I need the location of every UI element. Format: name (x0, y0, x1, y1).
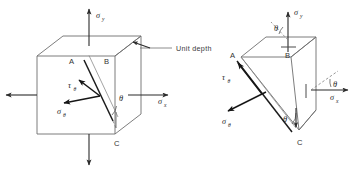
label-tau-theta-sub-left: θ (74, 86, 77, 92)
label-tau-theta-sub-right: θ (228, 78, 231, 84)
right-panel-wedge (228, 12, 348, 132)
label-sigma-y-right: σ (294, 8, 299, 17)
label-point-c-left: C (114, 139, 120, 148)
label-point-b-left: B (104, 57, 109, 66)
label-sigma-y-left: σ (96, 11, 101, 20)
label-sigma-y-sub-right: y (299, 13, 303, 19)
label-sigma-y-sub-left: y (101, 16, 105, 22)
label-theta-right-right: θ (333, 80, 337, 89)
label-sigma-x-sub-right: x (335, 98, 339, 104)
label-tau-theta-right: τ (222, 73, 226, 82)
wedge-top-face (241, 37, 316, 57)
unit-depth-leader (133, 42, 172, 48)
label-theta-top-right: θ (274, 24, 278, 33)
label-sigma-x-sub-left: x (163, 102, 167, 108)
cube-right-face (115, 36, 141, 134)
left-panel-cube (6, 9, 172, 165)
right-panel-labels: A B C σ y σ x τ θ σ θ θ θ θ (222, 8, 339, 147)
stress-element-figure: A B C σ y σ x τ θ σ θ θ Unit depth (0, 0, 353, 172)
plane-projection-dashed (113, 121, 116, 128)
label-point-a-right: A (230, 51, 236, 60)
label-tau-theta-left: τ (68, 81, 72, 90)
sigma-x-arrow-right-panel (306, 84, 348, 98)
sigma-y-arrow-right-panel (281, 12, 296, 52)
cube-front-face (37, 56, 115, 134)
label-sigma-x-right: σ (330, 93, 335, 102)
figure-canvas: A B C σ y σ x τ θ σ θ θ Unit depth (0, 0, 353, 172)
label-sigma-theta-right: σ (222, 117, 227, 126)
label-sigma-theta-sub-left: θ (63, 112, 66, 118)
label-theta-left: θ (119, 94, 123, 103)
label-sigma-theta-sub-right: θ (228, 122, 231, 128)
label-point-a-left: A (69, 57, 75, 66)
label-sigma-theta-left: σ (57, 107, 62, 116)
label-theta-bottom-right: θ (283, 115, 287, 124)
wedge-right-face (291, 37, 316, 130)
label-unit-depth: Unit depth (176, 44, 212, 53)
wedge-inclined-face (237, 57, 296, 132)
label-sigma-x-left: σ (158, 97, 163, 106)
left-panel-labels: A B C σ y σ x τ θ σ θ θ Unit depth (57, 11, 212, 148)
sigma-theta-arrow-right (228, 92, 266, 111)
label-point-b-right: B (285, 51, 290, 60)
wedge-bottom-edge (299, 110, 316, 130)
sigma-theta-arrow-left (64, 96, 100, 103)
label-point-c-right: C (297, 138, 303, 147)
